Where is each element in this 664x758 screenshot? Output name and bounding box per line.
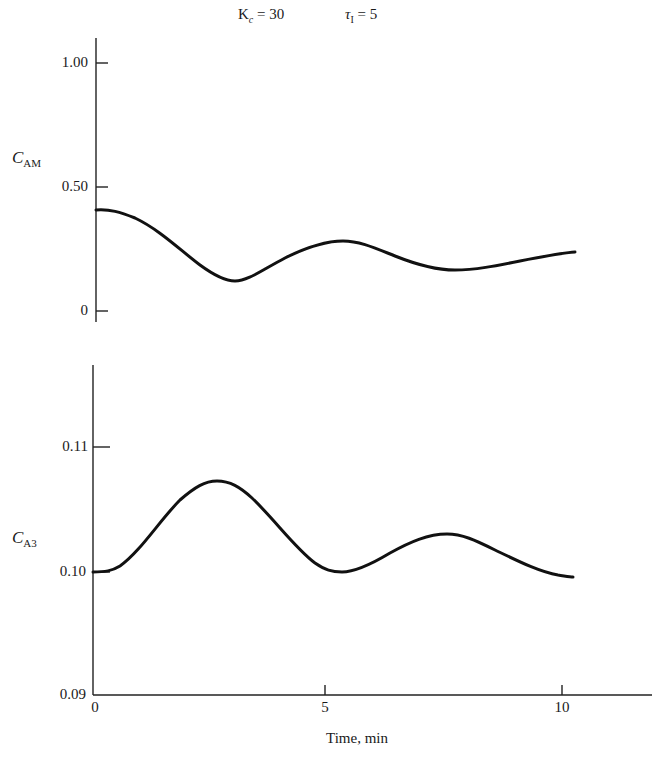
cam-curve	[96, 210, 575, 281]
ca3-curve	[93, 481, 573, 577]
bottom-axis	[93, 365, 652, 695]
plot-canvas	[0, 0, 664, 758]
top-axis	[96, 38, 108, 322]
